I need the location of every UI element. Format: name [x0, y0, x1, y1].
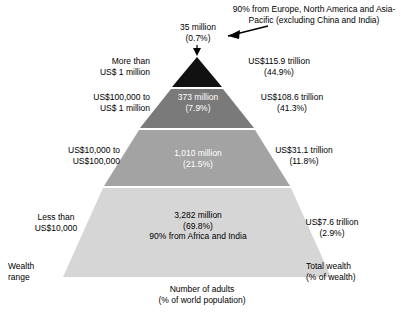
apex-adults-label: 35 million (0.7%) — [140, 22, 256, 43]
tier-base-total-wealth: US$7.6 trillion (2.9%) — [274, 217, 390, 238]
tier-second-total-wealth: US$108.6 trillion (41.3%) — [230, 92, 354, 113]
apex-pointer-icon — [193, 45, 201, 56]
axis-label-number-of-adults: Number of adults (% of world population) — [102, 284, 302, 305]
tier-third-total-wealth: US$31.1 trillion (11.8%) — [246, 145, 362, 166]
tier-base-wealth-range: Less than US$10,000 — [8, 212, 104, 233]
axis-label-wealth-range: Wealth range — [8, 261, 78, 282]
tier-top-total-wealth: US$115.9 trillion (44.9%) — [214, 56, 344, 77]
tier-third-wealth-range: US$10,000 to US$100,000 — [16, 145, 120, 166]
wealth-pyramid-figure: 90% from Europe, North America and Asia-… — [0, 0, 404, 323]
axis-label-total-wealth: Total wealth (% of wealth) — [306, 261, 398, 282]
tier-top-wealth-range: More than US$ 1 million — [58, 56, 150, 77]
tier-base-adults-label: 3,282 million (69.8%) 90% from Africa an… — [92, 210, 304, 242]
